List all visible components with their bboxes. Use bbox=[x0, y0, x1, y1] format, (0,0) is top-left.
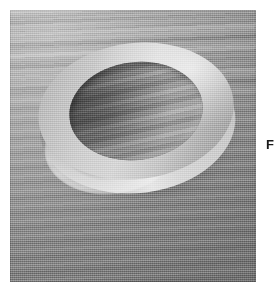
figure-caption-fragment: F bbox=[266, 137, 278, 153]
film-grain-overlay bbox=[10, 10, 256, 282]
figure-photograph bbox=[10, 10, 256, 282]
figure-page: F bbox=[0, 0, 278, 293]
